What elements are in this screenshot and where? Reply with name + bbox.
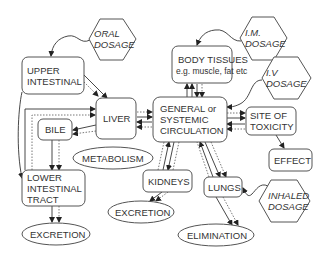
iv-dosage-line1: I.V: [266, 67, 279, 78]
edge-tox-to-effect: [276, 135, 284, 148]
body-tissues-line1: BODY TISSUES: [178, 54, 248, 65]
lower-intestinal-line1: LOWER: [27, 172, 62, 183]
elimination-label: ELIMINATION: [187, 230, 247, 241]
edge-kid-to-excretion-dotted: [156, 192, 168, 201]
svg-text:TRACT: TRACT: [27, 194, 59, 205]
svg-text:LOWER: LOWER: [27, 172, 62, 183]
edge-lungs-to-elimination-dotted: [223, 197, 238, 225]
site-of-toxicity-line2: TOXICITY: [250, 121, 294, 132]
svg-text:BILE: BILE: [45, 124, 66, 135]
svg-text:DOSAGE: DOSAGE: [94, 39, 135, 50]
circulation-line3: CIRCULATION: [160, 125, 224, 136]
node-effect[interactable]: EFFECT: [269, 149, 312, 171]
node-bile[interactable]: BILE: [38, 119, 72, 140]
svg-text:TOXICITY: TOXICITY: [250, 121, 294, 132]
svg-text:EFFECT: EFFECT: [274, 155, 311, 166]
svg-text:LIVER: LIVER: [103, 113, 131, 124]
bile-label: BILE: [45, 124, 66, 135]
edge-lungs-to-elimination: [216, 197, 232, 225]
effect-label: EFFECT: [274, 155, 311, 166]
circulation-line1: GENERAL or: [160, 103, 216, 114]
edge-upper-to-lower: [18, 92, 22, 178]
edge-iv-to-circ: [227, 80, 262, 107]
svg-text:ELIMINATION: ELIMINATION: [187, 230, 247, 241]
node-metabolism[interactable]: METABOLISM: [73, 147, 153, 169]
svg-text:e.g. muscle, fat etc: e.g. muscle, fat etc: [176, 66, 248, 76]
node-site-of-toxicity[interactable]: SITE OF TOXICITY: [246, 107, 296, 135]
inhaled-dosage-line2: DOSAGE: [268, 201, 309, 212]
svg-text:BODY TISSUES: BODY TISSUES: [178, 54, 248, 65]
node-liver[interactable]: LIVER: [96, 98, 136, 139]
upper-intestinal-line2: INTESTINAL: [27, 76, 82, 87]
liver-label: LIVER: [103, 113, 131, 124]
node-kidneys[interactable]: KIDNEYS: [143, 170, 192, 192]
node-lower-intestinal[interactable]: LOWER INTESTINAL TRACT: [22, 170, 85, 206]
edge-upper-to-liver-dotted: [84, 82, 98, 96]
node-excretion-left[interactable]: EXCRETION: [22, 223, 90, 245]
svg-text:DOSAGE: DOSAGE: [268, 201, 309, 212]
svg-text:ORAL: ORAL: [94, 28, 120, 39]
site-of-toxicity-line1: SITE OF: [250, 110, 287, 121]
svg-text:I.V: I.V: [266, 67, 279, 78]
im-dosage-line2: DOSAGE: [245, 38, 286, 49]
node-body-tissues[interactable]: BODY TISSUES e.g. muscle, fat etc: [172, 46, 248, 83]
edge-lungs-to-circ: [200, 142, 213, 177]
iv-dosage-line2: DOSAGE: [266, 78, 307, 89]
svg-text:EXCRETION: EXCRETION: [30, 229, 86, 240]
svg-text:DOSAGE: DOSAGE: [245, 38, 286, 49]
node-elimination[interactable]: ELIMINATION: [178, 224, 254, 246]
svg-text:SYSTEMIC: SYSTEMIC: [160, 114, 209, 125]
body-tissues-line2: e.g. muscle, fat etc: [176, 66, 248, 76]
lower-intestinal-line3: TRACT: [27, 194, 59, 205]
svg-text:GENERAL or: GENERAL or: [160, 103, 216, 114]
svg-text:SITE OF: SITE OF: [250, 110, 287, 121]
im-dosage-line1: I.M.: [245, 27, 261, 38]
edge-kid-to-circ: [163, 142, 169, 170]
svg-text:DOSAGE: DOSAGE: [266, 78, 307, 89]
oral-dosage-line2: DOSAGE: [94, 39, 135, 50]
node-excretion-mid[interactable]: EXCRETION: [108, 201, 174, 223]
svg-text:INHALED: INHALED: [268, 190, 309, 201]
node-circulation[interactable]: GENERAL or SYSTEMIC CIRCULATION: [153, 97, 227, 142]
svg-text:METABOLISM: METABOLISM: [82, 153, 144, 164]
svg-text:UPPER: UPPER: [27, 65, 60, 76]
svg-text:KIDNEYS: KIDNEYS: [148, 176, 190, 187]
inhaled-dosage-line1: INHALED: [268, 190, 309, 201]
svg-text:INTESTINAL: INTESTINAL: [27, 183, 82, 194]
lower-intestinal-line2: INTESTINAL: [27, 183, 82, 194]
edge-oral-to-upper: [51, 36, 90, 56]
lungs-label: LUNGS: [208, 182, 241, 193]
oral-dosage-line1: ORAL: [94, 28, 120, 39]
node-iv-dosage[interactable]: I.V DOSAGE: [262, 57, 311, 99]
svg-text:EXCRETION: EXCRETION: [115, 207, 171, 218]
circulation-line2: SYSTEMIC: [160, 114, 209, 125]
excretion-left-label: EXCRETION: [30, 229, 86, 240]
metabolism-label: METABOLISM: [82, 153, 144, 164]
node-oral-dosage[interactable]: ORAL DOSAGE: [89, 19, 136, 60]
pharmacokinetics-diagram: ORAL DOSAGE UPPER INTESTINAL LIVER BILE …: [0, 0, 328, 259]
svg-text:LUNGS: LUNGS: [208, 182, 241, 193]
kidneys-label: KIDNEYS: [148, 176, 190, 187]
edge-circ-to-lungs: [205, 142, 220, 177]
node-lungs[interactable]: LUNGS: [204, 177, 242, 197]
edge-circ-kid-dotted-1: [158, 142, 164, 170]
edge-circ-to-kid: [168, 142, 174, 170]
edge-liver-to-bile-dotted: [73, 131, 96, 134]
upper-intestinal-line1: UPPER: [27, 65, 60, 76]
edge-upper-to-liver: [84, 75, 107, 98]
svg-text:INTESTINAL: INTESTINAL: [27, 76, 82, 87]
edge-im-to-body: [197, 30, 241, 45]
svg-text:I.M.: I.M.: [245, 27, 261, 38]
svg-text:CIRCULATION: CIRCULATION: [160, 125, 224, 136]
node-upper-intestinal[interactable]: UPPER INTESTINAL: [22, 57, 84, 94]
excretion-mid-label: EXCRETION: [115, 207, 171, 218]
node-inhaled-dosage[interactable]: INHALED DOSAGE: [259, 180, 310, 222]
edge-circ-kid-dotted-2: [173, 142, 179, 170]
edge-liver-to-bile: [73, 125, 96, 130]
edge-kid-to-excretion: [150, 192, 162, 201]
edge-circ-lungs-dotted-2: [211, 142, 226, 177]
